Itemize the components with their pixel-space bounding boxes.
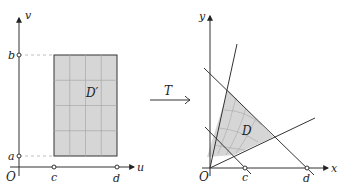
tick-label-a: a [8,150,15,163]
right-plot: y x O c d D [198,10,338,185]
origin-label: O [6,170,16,184]
transform-label: T [164,84,173,98]
tick-point-b [17,53,21,57]
tick-point-c [52,165,56,169]
tick-label-d: d [113,172,120,185]
u-axis-label: u [137,161,144,174]
origin-label: O [199,170,209,184]
region-label-d: D [241,124,252,138]
diagram-canvas: v u O b a c d D′ T [0,0,344,188]
tick-point-d [115,165,119,169]
v-axis-label: v [25,9,32,22]
x-axis-label: x [331,162,338,175]
tick-point-d [305,166,309,170]
tick-label-c: c [242,171,248,184]
tick-point-c [243,166,247,170]
transform-arrow: T [150,84,190,104]
left-plot: v u O b a c d D′ [6,9,144,185]
region-label-d-prime: D′ [85,86,99,100]
y-axis-label: y [198,10,206,23]
tick-label-c: c [51,171,57,184]
tick-label-b: b [8,49,15,62]
tick-label-d: d [303,172,310,185]
tick-point-a [17,154,21,158]
